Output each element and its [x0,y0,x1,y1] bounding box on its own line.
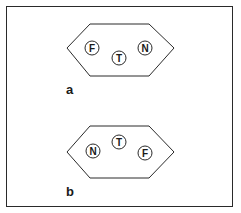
pin-letter: N [89,146,96,157]
panel-label-a: a [66,82,73,97]
pin-f-panel-a: F [85,41,99,55]
pin-letter: F [142,148,148,159]
pin-letter: N [141,43,148,54]
panel-a-outlet [67,24,174,76]
panel-b-outlet [67,126,174,178]
pin-n-panel-a: N [138,41,152,55]
pin-f-panel-b: F [138,146,152,160]
pin-n-panel-b: N [86,144,100,158]
panel-label-b: b [66,184,74,199]
hexagon-outline-a [67,24,174,76]
plug-diagram: FTNNTF [0,0,241,213]
pin-letter: T [116,53,122,64]
pin-t-panel-a: T [112,51,126,65]
hexagon-outline-b [67,126,174,178]
pin-letter: F [89,43,95,54]
pin-t-panel-b: T [112,135,126,149]
pin-letter: T [116,137,122,148]
